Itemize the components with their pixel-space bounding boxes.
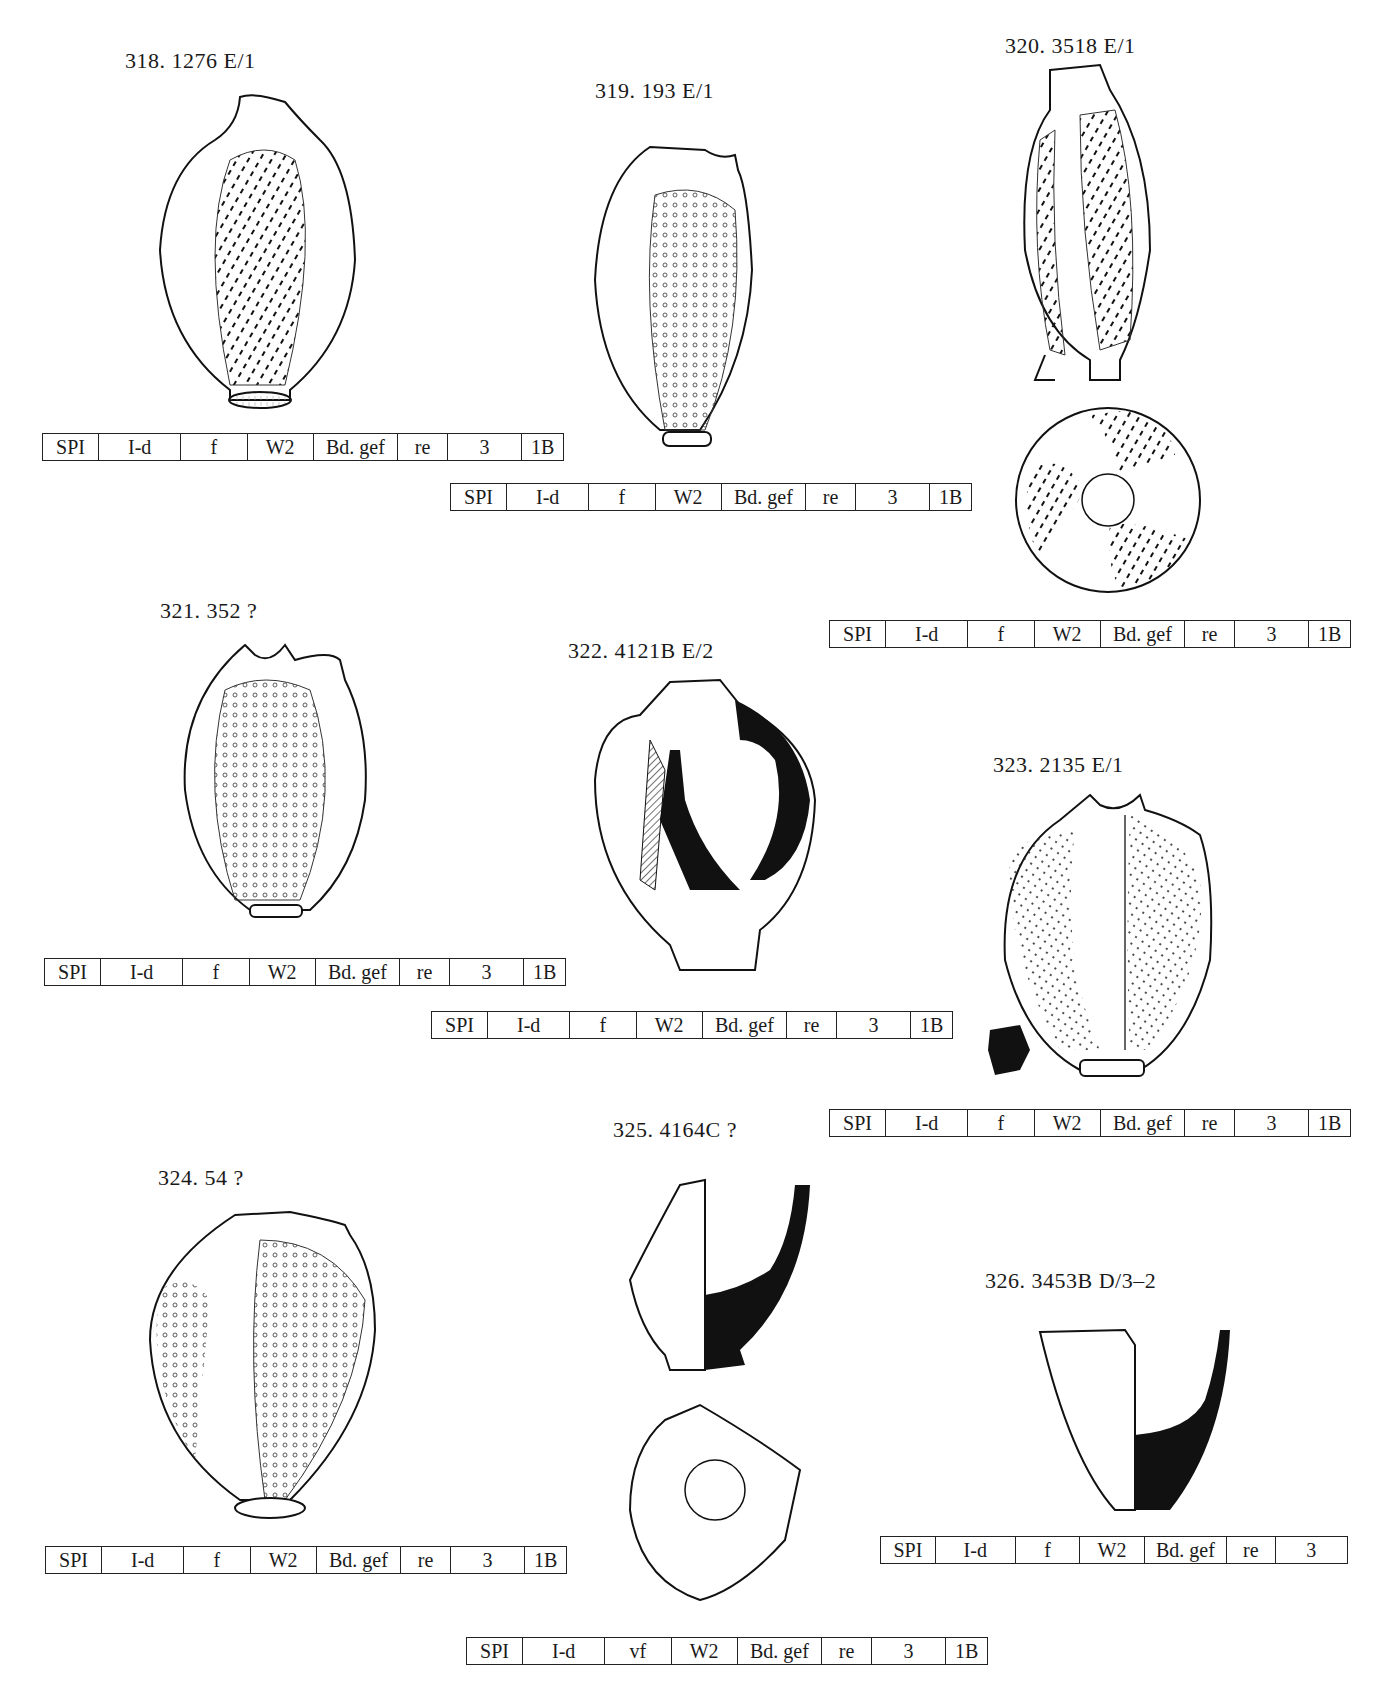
vessel-321: [185, 645, 366, 917]
vessel-319: [595, 147, 752, 446]
vessel-324: [150, 1212, 375, 1518]
vessel-325: [630, 1180, 810, 1600]
vessel-318: [160, 95, 355, 408]
vessel-323: [988, 795, 1211, 1076]
vessel-322: [595, 680, 815, 970]
vessel-326: [1040, 1330, 1230, 1510]
vessel-320: [1016, 65, 1200, 592]
vessel-drawing-318: [0, 0, 1396, 1693]
